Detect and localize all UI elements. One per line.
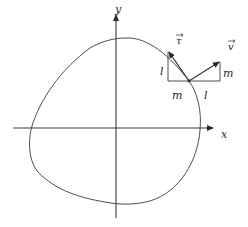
normal-vertical-label: m	[223, 67, 233, 80]
tangent-point	[188, 80, 191, 83]
tangent-vector-arrow	[169, 52, 189, 81]
diagram-canvas: y x τ v l m l m	[0, 0, 248, 227]
curve-diagram: y x τ v l m l m	[0, 0, 248, 227]
tau-label: τ	[176, 34, 183, 47]
tangent-vertical-label: l	[160, 65, 164, 78]
closed-curve	[30, 38, 201, 204]
svg-text:v: v	[228, 41, 234, 52]
normal-vector-arrow	[189, 62, 219, 81]
svg-text:τ: τ	[176, 35, 182, 46]
v-label: v	[228, 40, 235, 53]
y-axis-label: y	[114, 3, 122, 16]
normal-horizontal-label: l	[204, 89, 208, 102]
x-axis-label: x	[221, 128, 228, 141]
tangent-horizontal-label: m	[172, 89, 182, 102]
